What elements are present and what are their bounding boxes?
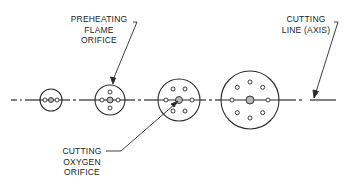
preheat-orifice [116, 98, 120, 102]
label-line: ORIFICE [56, 167, 108, 178]
preheat-orifice [190, 98, 194, 102]
preheat-orifice [171, 87, 175, 91]
preheat-orifice [261, 111, 265, 115]
cutting-oxygen-orifice-label: CUTTING OXYGEN ORIFICE [56, 146, 108, 178]
preheating-flame-orifice-label: PREHEATING FLAME ORIFICE [66, 14, 132, 46]
cutting-line-axis-label: CUTTING LINE (AXIS) [278, 14, 334, 35]
preheat-orifice [183, 109, 187, 113]
preheat-orifice [164, 98, 168, 102]
label-line: OXYGEN [56, 157, 108, 168]
tip-size-2 [95, 85, 125, 115]
label-line: LINE (AXIS) [278, 25, 334, 36]
preheat-orifice [235, 85, 239, 89]
preheat-orifice [266, 98, 270, 102]
label-line: CUTTING [56, 146, 108, 157]
label-line: PREHEATING [66, 14, 132, 25]
preheat-orifice [261, 85, 265, 89]
preheat-orifice [108, 90, 112, 94]
cutting-oxygen-orifice [49, 98, 54, 103]
preheat-orifice [248, 80, 252, 84]
tip-size-4 [221, 71, 279, 129]
preheat-orifice [183, 87, 187, 91]
preheat-orifice [55, 98, 59, 102]
preheat-orifice [108, 106, 112, 110]
tip-size-1 [40, 89, 62, 111]
label-line: FLAME [66, 25, 132, 36]
preheat-orifice [100, 98, 104, 102]
preheat-orifice [43, 98, 47, 102]
cutting-oxygen-orifice [107, 97, 113, 103]
preheat-orifice [235, 111, 239, 115]
arrowhead-icon [313, 90, 319, 98]
arrowhead-icon [111, 77, 116, 84]
preheat-orifice [171, 109, 175, 113]
preheat-orifice [230, 98, 234, 102]
preheat-orifice [248, 116, 252, 120]
label-line: CUTTING [278, 14, 334, 25]
label-line: ORIFICE [66, 35, 132, 46]
tip-size-3 [158, 79, 200, 121]
cutting-oxygen-orifice [246, 96, 254, 104]
